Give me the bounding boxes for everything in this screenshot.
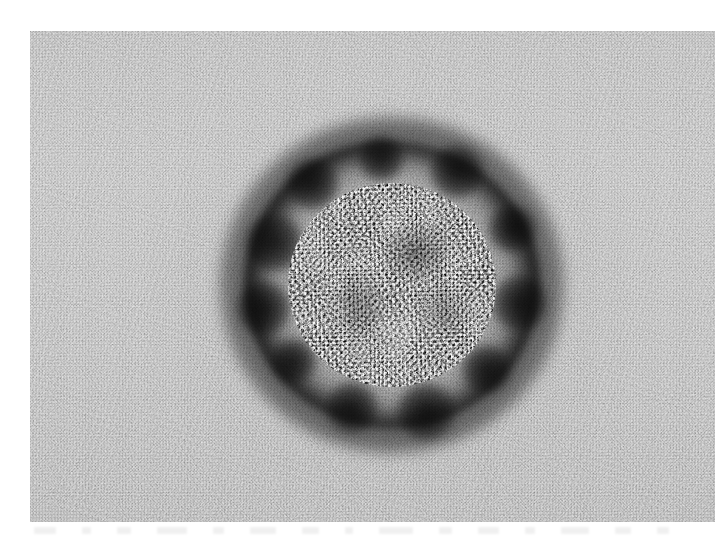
scan-artifact-mark bbox=[345, 527, 353, 534]
scan-artifact-mark bbox=[34, 527, 56, 534]
scan-artifact-mark bbox=[117, 527, 131, 534]
figure-description: Single enveloped virus particle (coronav… bbox=[0, 16, 1, 17]
scan-artifact-mark bbox=[657, 527, 669, 534]
scan-artifact-mark bbox=[615, 527, 631, 534]
scan-artifact-mark bbox=[157, 527, 187, 534]
scan-artifact-mark bbox=[213, 527, 224, 534]
electron-micrograph-image bbox=[30, 31, 715, 522]
figure-root: Single enveloped virus particle (coronav… bbox=[0, 0, 721, 543]
scan-artifact-mark bbox=[250, 527, 276, 534]
scan-artifact-mark bbox=[561, 527, 589, 534]
bottom-scan-artifacts bbox=[34, 524, 694, 537]
scan-artifact-mark bbox=[82, 527, 91, 534]
scan-artifact-mark bbox=[478, 527, 499, 534]
scan-artifact-mark bbox=[302, 527, 319, 534]
core-density-blotches bbox=[288, 183, 496, 387]
nucleocapsid-core bbox=[288, 183, 496, 387]
scan-artifact-mark bbox=[379, 527, 413, 534]
scan-artifact-mark bbox=[525, 527, 535, 534]
scan-artifact-mark bbox=[439, 527, 452, 534]
